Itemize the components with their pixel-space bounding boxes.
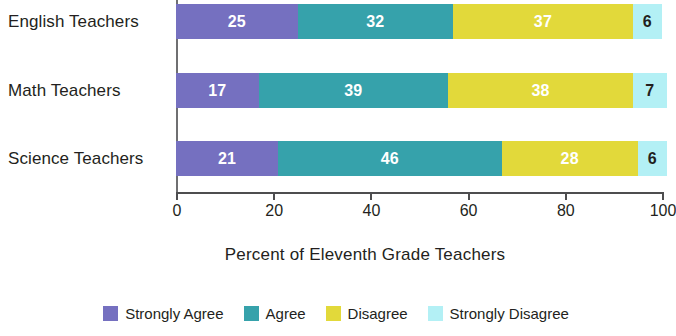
bar-segment[interactable]: 17 (176, 73, 259, 108)
legend-item-label: Strongly Disagree (450, 306, 569, 321)
x-axis-title-text: Percent of Eleventh Grade Teachers (225, 246, 506, 263)
bar-segment[interactable]: 46 (278, 141, 502, 176)
x-axis-tick (662, 192, 664, 200)
legend-item-label: Disagree (348, 306, 408, 321)
bar-segment[interactable]: 28 (502, 141, 638, 176)
bar-segment-value: 37 (534, 14, 552, 30)
bar-segment[interactable]: 39 (259, 73, 449, 108)
legend-swatch-icon (326, 306, 341, 321)
x-axis-tick-label: 20 (265, 203, 283, 219)
bar-segment-value: 6 (648, 151, 657, 167)
bar-row: 1739387 (176, 73, 662, 108)
bar-segment-value: 17 (208, 83, 226, 99)
bar-segment[interactable]: 32 (298, 4, 454, 39)
bar-segment[interactable]: 6 (638, 141, 667, 176)
legend-item-label: Agree (266, 306, 306, 321)
x-axis-tick (273, 192, 275, 200)
x-axis-line (176, 192, 663, 194)
chart-legend: Strongly AgreeAgreeDisagreeStrongly Disa… (0, 306, 672, 321)
bar-row: 2532376 (176, 4, 662, 39)
bar-segment-value: 28 (561, 151, 579, 167)
bar-segment-value: 21 (218, 151, 236, 167)
legend-swatch-icon (103, 306, 118, 321)
x-axis-tick (176, 192, 178, 200)
legend-item[interactable]: Disagree (326, 306, 408, 321)
legend-item-label: Strongly Agree (125, 306, 223, 321)
bar-segment[interactable]: 38 (448, 73, 633, 108)
legend-swatch-icon (428, 306, 443, 321)
legend-item[interactable]: Strongly Disagree (428, 306, 569, 321)
category-label-science-teachers: Science Teachers (8, 150, 143, 167)
x-axis-tick (370, 192, 372, 200)
x-axis-tick-label: 100 (650, 203, 676, 219)
bar-segment-value: 6 (643, 14, 652, 30)
bar-row: 2146286 (176, 141, 662, 176)
bar-segment[interactable]: 7 (633, 73, 667, 108)
bar-segment[interactable]: 21 (176, 141, 278, 176)
category-label-math-teachers: Math Teachers (8, 82, 121, 99)
x-axis-tick-label: 0 (173, 203, 182, 219)
bar-segment[interactable]: 6 (633, 4, 662, 39)
x-axis-tick (565, 192, 567, 200)
legend-swatch-icon (244, 306, 259, 321)
category-label-english-teachers: English Teachers (8, 13, 139, 30)
bar-segment-value: 38 (531, 83, 549, 99)
bar-segment[interactable]: 25 (176, 4, 298, 39)
x-axis-tick-label: 60 (460, 203, 478, 219)
x-axis-tick (468, 192, 470, 200)
bar-segment-value: 7 (645, 83, 654, 99)
legend-item[interactable]: Strongly Agree (103, 306, 223, 321)
bar-segment-value: 32 (366, 14, 384, 30)
bar-segment-value: 39 (344, 83, 362, 99)
bar-segment-value: 25 (228, 14, 246, 30)
legend-item[interactable]: Agree (244, 306, 306, 321)
bar-segment[interactable]: 37 (453, 4, 633, 39)
x-axis-tick-label: 40 (362, 203, 380, 219)
bar-segment-value: 46 (381, 151, 399, 167)
x-axis-tick-label: 80 (557, 203, 575, 219)
plot-area: 253237617393872146286 (176, 0, 662, 192)
x-axis-title: Percent of Eleventh Grade Teachers (0, 246, 672, 263)
